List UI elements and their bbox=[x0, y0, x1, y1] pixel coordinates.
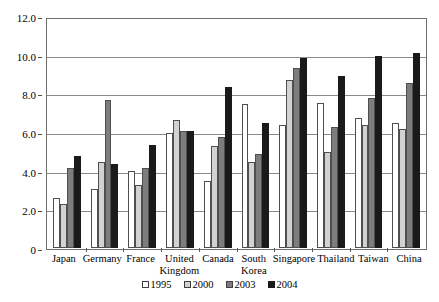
bar-1995 bbox=[317, 103, 324, 248]
legend-swatch-icon bbox=[226, 281, 233, 288]
x-tick-mark bbox=[387, 248, 388, 252]
bar-group bbox=[86, 20, 124, 248]
y-tick-mark bbox=[38, 250, 42, 251]
plot-wrapper bbox=[46, 18, 427, 250]
x-tick-mark bbox=[199, 248, 200, 252]
x-axis-label: Germany bbox=[82, 253, 123, 276]
bar-2004 bbox=[225, 87, 232, 248]
bar-1995 bbox=[204, 181, 211, 248]
x-axis-label: South Korea bbox=[236, 253, 272, 276]
x-axis-label: Taiwan bbox=[356, 253, 392, 276]
bar-2004 bbox=[149, 145, 156, 249]
y-tick-label: 10.0 bbox=[17, 51, 36, 62]
bar-1995 bbox=[355, 118, 362, 248]
bar-group-bars bbox=[199, 20, 237, 248]
bar-2000 bbox=[362, 125, 369, 248]
x-axis-label: Singapore bbox=[272, 253, 317, 276]
bar-group bbox=[312, 20, 350, 248]
chart-legend: 1995200020032004 bbox=[0, 279, 439, 290]
bar-2004 bbox=[74, 156, 81, 248]
x-tick-mark bbox=[350, 248, 351, 252]
bar-2000 bbox=[399, 129, 406, 248]
y-tick-mark bbox=[38, 173, 42, 174]
bar-group-bars bbox=[274, 20, 312, 248]
bar-group-bars bbox=[312, 20, 350, 248]
bar-2004 bbox=[300, 58, 307, 248]
bar-2003 bbox=[293, 68, 300, 248]
x-tick-mark bbox=[86, 248, 87, 252]
bar-2003 bbox=[255, 154, 262, 248]
bar-2000 bbox=[324, 152, 331, 248]
y-tick-mark bbox=[38, 211, 42, 212]
x-axis-label: United Kingdom bbox=[159, 253, 201, 276]
bar-2000 bbox=[173, 120, 180, 248]
y-tick-label: 0 bbox=[31, 245, 37, 256]
bar-group-bars bbox=[387, 20, 425, 248]
x-tick-mark bbox=[237, 248, 238, 252]
x-tick-mark bbox=[312, 248, 313, 252]
bar-group bbox=[350, 20, 388, 248]
legend-swatch-icon bbox=[268, 281, 275, 288]
bar-1995 bbox=[128, 171, 135, 248]
y-tick-label: 2.0 bbox=[22, 206, 36, 217]
bar-group bbox=[199, 20, 237, 248]
bar-group bbox=[48, 20, 86, 248]
bar-2004 bbox=[338, 76, 345, 249]
bar-group bbox=[237, 20, 275, 248]
bar-2003 bbox=[105, 100, 112, 248]
bar-group-bars bbox=[86, 20, 124, 248]
bar-2000 bbox=[248, 162, 255, 248]
bar-2003 bbox=[406, 83, 413, 248]
y-axis: 12.010.08.06.04.02.00 bbox=[0, 18, 42, 250]
bar-group bbox=[387, 20, 425, 248]
bar-2003 bbox=[331, 127, 338, 248]
bar-2004 bbox=[375, 56, 382, 248]
legend-swatch-icon bbox=[142, 281, 149, 288]
legend-label: 2000 bbox=[193, 279, 214, 290]
bar-group bbox=[274, 20, 312, 248]
bar-group-bars bbox=[161, 20, 199, 248]
bar-group bbox=[123, 20, 161, 248]
bar-1995 bbox=[392, 123, 399, 248]
y-tick-label: 4.0 bbox=[22, 167, 36, 178]
bar-2003 bbox=[67, 168, 74, 249]
x-tick-mark bbox=[274, 248, 275, 252]
bar-group-bars bbox=[48, 20, 86, 248]
bar-2000 bbox=[60, 204, 67, 248]
bar-2003 bbox=[142, 168, 149, 249]
bar-1995 bbox=[279, 125, 286, 248]
y-tick-mark bbox=[38, 95, 42, 96]
legend-item-2000[interactable]: 2000 bbox=[184, 279, 214, 290]
bar-group-bars bbox=[123, 20, 161, 248]
y-tick-mark bbox=[38, 134, 42, 135]
bar-chart: 12.010.08.06.04.02.00 JapanGermanyFrance… bbox=[0, 0, 439, 302]
x-axis-label: Canada bbox=[200, 253, 236, 276]
bar-2004 bbox=[413, 53, 420, 249]
legend-item-1995[interactable]: 1995 bbox=[142, 279, 172, 290]
bar-1995 bbox=[53, 198, 60, 248]
legend-swatch-icon bbox=[184, 281, 191, 288]
legend-label: 1995 bbox=[151, 279, 172, 290]
bar-2000 bbox=[211, 146, 218, 248]
bar-2004 bbox=[262, 123, 269, 248]
x-axis-label: China bbox=[391, 253, 427, 276]
y-tick-mark bbox=[38, 18, 42, 19]
bar-groups bbox=[48, 20, 425, 248]
bar-group bbox=[161, 20, 199, 248]
plot-area bbox=[46, 18, 427, 250]
bar-2003 bbox=[180, 131, 187, 248]
legend-item-2004[interactable]: 2004 bbox=[268, 279, 298, 290]
y-tick-label: 12.0 bbox=[17, 13, 36, 24]
x-tick-mark bbox=[161, 248, 162, 252]
bar-2003 bbox=[218, 137, 225, 248]
bar-2004 bbox=[111, 164, 118, 248]
bar-1995 bbox=[166, 133, 173, 248]
x-axis-label: Japan bbox=[46, 253, 82, 276]
y-tick-label: 8.0 bbox=[22, 90, 36, 101]
bar-1995 bbox=[91, 189, 98, 248]
x-axis-label: Thailand bbox=[316, 253, 355, 276]
legend-label: 2004 bbox=[277, 279, 298, 290]
legend-item-2003[interactable]: 2003 bbox=[226, 279, 256, 290]
bar-2004 bbox=[187, 131, 194, 248]
legend-label: 2003 bbox=[235, 279, 256, 290]
